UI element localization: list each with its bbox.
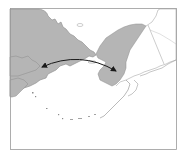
bering-strait-map	[0, 0, 184, 157]
map-svg	[0, 0, 184, 157]
